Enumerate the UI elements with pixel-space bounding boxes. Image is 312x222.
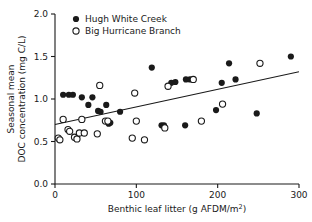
y-axis-title-line2: DOC concentration (mg C/L) xyxy=(17,35,27,162)
data-point xyxy=(162,125,168,131)
data-point xyxy=(67,128,73,134)
y-axis-tick-label: 1.0 xyxy=(34,94,49,104)
data-point xyxy=(288,53,294,59)
legend-marker-2 xyxy=(73,28,79,34)
data-point xyxy=(232,76,238,82)
x-axis-title: Benthic leaf litter (g AFDM/m2) xyxy=(108,203,246,214)
data-point xyxy=(213,107,219,113)
y-axis-tick-label: 1.5 xyxy=(34,52,48,62)
data-point xyxy=(85,102,91,108)
data-point xyxy=(97,109,103,115)
data-point xyxy=(165,83,171,89)
data-point xyxy=(57,137,63,143)
data-point xyxy=(74,136,80,142)
data-point xyxy=(117,109,123,115)
data-point xyxy=(149,64,155,70)
chart-figure: 0.00.51.01.52.00100200300Benthic leaf li… xyxy=(0,0,312,222)
data-point xyxy=(172,79,178,85)
data-point xyxy=(97,82,103,88)
data-point xyxy=(226,60,232,66)
y-axis-title-line1: Seasonal mean xyxy=(6,64,16,133)
data-point xyxy=(105,118,111,124)
data-point xyxy=(182,122,188,128)
data-point xyxy=(254,110,260,116)
data-point xyxy=(257,60,263,66)
data-point xyxy=(60,116,66,122)
data-point xyxy=(94,131,100,137)
data-point xyxy=(129,135,135,141)
data-point xyxy=(60,92,66,98)
y-axis-tick-label: 2.0 xyxy=(34,9,49,19)
y-axis-tick-label: 0.5 xyxy=(34,137,48,147)
data-point xyxy=(190,76,196,82)
data-point xyxy=(81,130,87,136)
data-point xyxy=(103,102,109,108)
x-axis-tick-label: 300 xyxy=(290,190,307,200)
x-axis-tick-label: 0 xyxy=(52,190,58,200)
x-axis-tick-label: 100 xyxy=(128,190,145,200)
data-point xyxy=(79,94,85,100)
scatter-plot: 0.00.51.01.52.00100200300Benthic leaf li… xyxy=(0,0,312,222)
y-axis-tick-label: 0.0 xyxy=(34,179,49,189)
x-axis-tick-label: 200 xyxy=(209,190,226,200)
data-point xyxy=(141,137,147,143)
data-point xyxy=(132,90,138,96)
data-point xyxy=(70,92,76,98)
data-point xyxy=(219,101,225,107)
data-point xyxy=(89,94,95,100)
data-point xyxy=(219,80,225,86)
data-point xyxy=(198,118,204,124)
legend-label-2: Big Hurricane Branch xyxy=(85,26,181,36)
legend-marker-1 xyxy=(73,16,79,22)
data-point xyxy=(133,118,139,124)
data-point xyxy=(79,116,85,122)
legend-label-1: Hugh White Creek xyxy=(85,14,168,24)
